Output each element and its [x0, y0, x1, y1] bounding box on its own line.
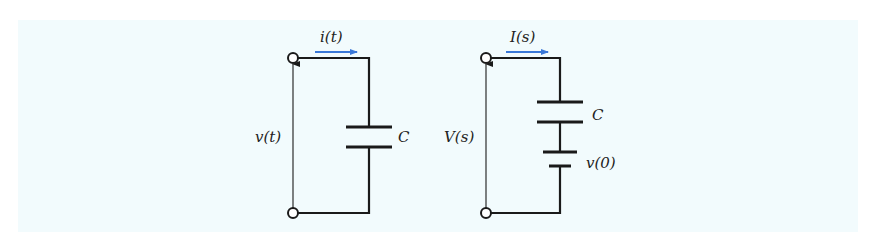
voltage-label: v(t) — [255, 128, 281, 146]
terminal-top — [481, 53, 491, 63]
terminal-bottom — [288, 208, 298, 218]
circuit-diagram: i(t) v(t) C I(s) V(s) C v(0) — [0, 0, 869, 252]
bottom-wire — [491, 166, 560, 213]
current-label: i(t) — [320, 28, 343, 46]
time-domain-circuit: i(t) v(t) C — [255, 28, 410, 218]
terminal-top — [288, 53, 298, 63]
top-wire — [491, 58, 560, 102]
capacitor-label: C — [398, 128, 410, 146]
current-label: I(s) — [509, 28, 535, 46]
initial-voltage-label: v(0) — [586, 154, 616, 172]
capacitor-label: C — [592, 106, 604, 124]
s-domain-circuit: I(s) V(s) C v(0) — [444, 28, 616, 218]
bottom-wire — [298, 147, 369, 213]
voltage-label: V(s) — [444, 128, 474, 146]
top-wire — [298, 58, 369, 127]
terminal-bottom — [481, 208, 491, 218]
